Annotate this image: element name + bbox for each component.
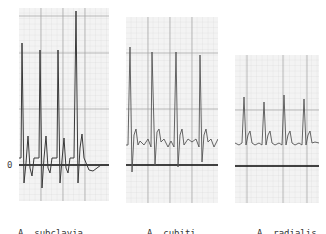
pulse-trace-radialis <box>235 55 319 203</box>
panel-radialis <box>235 55 319 203</box>
caption-cubiti-line1: A. cubiti <box>147 228 196 234</box>
zero-axis-label: 0 <box>7 160 12 170</box>
caption-subclavia: A. subclavia (infraklavikulär) <box>18 208 125 234</box>
pulse-trace-cubiti <box>126 17 218 203</box>
panel-cubiti <box>126 17 218 203</box>
caption-subclavia-line1: A. subclavia <box>18 228 125 234</box>
pulse-trace-subclavia <box>19 8 109 201</box>
caption-radialis: A. radialis <box>257 208 317 234</box>
caption-radialis-line1: A. radialis <box>257 228 317 234</box>
caption-cubiti: A. cubiti <box>147 208 196 234</box>
panel-subclavia <box>19 8 109 201</box>
